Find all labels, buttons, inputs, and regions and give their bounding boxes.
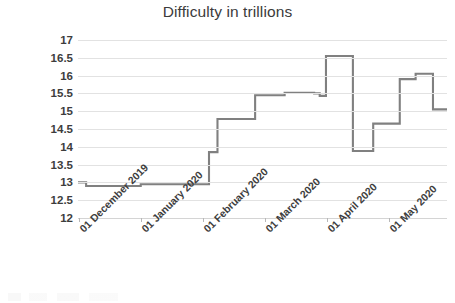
x-axis-line <box>78 218 447 219</box>
y-axis-labels: 1716.51615.51514.51413.51312.512 <box>0 0 73 303</box>
x-axis-tick <box>265 218 266 222</box>
x-axis-tick <box>79 218 80 222</box>
y-axis-tick-label: 12.5 <box>3 194 73 206</box>
x-axis-tick <box>327 218 328 222</box>
gridline <box>78 129 447 130</box>
plot-area <box>78 40 447 218</box>
y-axis-tick-label: 15.5 <box>3 87 73 99</box>
gridline <box>78 58 447 59</box>
y-axis-tick-label: 13 <box>3 176 73 188</box>
gridline <box>78 93 447 94</box>
y-axis-tick-label: 14 <box>3 141 73 153</box>
y-axis-tick-label: 12 <box>3 212 73 224</box>
x-axis-tick <box>203 218 204 222</box>
y-axis-tick-label: 15 <box>3 105 73 117</box>
gridline <box>78 40 447 41</box>
page-cutoff-artifact <box>8 293 138 301</box>
gridline <box>78 147 447 148</box>
gridline <box>78 76 447 77</box>
y-axis-tick-label: 14.5 <box>3 123 73 135</box>
gridline <box>78 200 447 201</box>
y-axis-tick-label: 13.5 <box>3 159 73 171</box>
x-axis-tick <box>389 218 390 222</box>
y-axis-tick-label: 16.5 <box>3 52 73 64</box>
gridline <box>78 111 447 112</box>
chart-screenshot: Difficulty in trillions 1716.51615.51514… <box>0 0 455 303</box>
y-axis-tick-label: 16 <box>3 70 73 82</box>
x-axis-tick <box>141 218 142 222</box>
y-axis-tick-label: 17 <box>3 34 73 46</box>
